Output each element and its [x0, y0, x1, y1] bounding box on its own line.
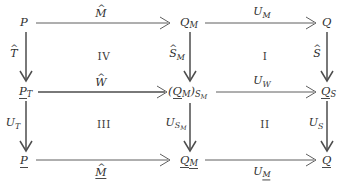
node-middle-right-base: Q	[321, 86, 330, 99]
hat-accent-icon: ^	[313, 44, 321, 53]
node-bottom-center-base: Q	[180, 155, 189, 168]
edge-label-bottom-right-sub: M	[263, 171, 271, 181]
edge-label-middle-right-sub: W	[263, 80, 271, 89]
node-middle-center: (QM)SM	[168, 86, 207, 100]
node-top-center-sub: M	[189, 20, 197, 30]
edge-label-right-upper: S^	[313, 48, 321, 59]
edge-label-left-lower: UT	[6, 117, 21, 130]
edge-label-left-lower-base: U	[6, 117, 15, 128]
hat-accent-icon: ^	[97, 73, 105, 82]
arrow-bottom-right	[205, 154, 316, 166]
node-middle-right: QS	[321, 86, 336, 99]
edge-label-center-upper-base: S^	[169, 48, 177, 59]
hat-accent-icon: ^	[169, 45, 177, 54]
edge-label-left-lower-sub: T	[15, 122, 20, 131]
node-top-left: P	[20, 17, 28, 29]
edge-label-center-lower-sub: SM	[175, 121, 187, 130]
edge-label-left-upper: T^	[10, 48, 17, 59]
hat-accent-icon: ^	[10, 44, 18, 53]
node-middle-center-outer-sub: SM	[195, 89, 207, 99]
node-bottom-right-base: Q	[322, 155, 331, 168]
commutative-diagram: P QM Q PT (QM)SM QS P QM Q M^ UM W^ UW	[0, 0, 359, 191]
edge-label-middle-left-base: W^	[95, 77, 106, 88]
hat-accent-icon: ^	[97, 4, 105, 13]
node-top-right-base: Q	[322, 17, 331, 29]
region-label-I: I	[263, 51, 268, 62]
edge-label-top-right: UM	[253, 6, 270, 19]
edge-label-top-right-base: U	[253, 6, 262, 17]
edge-label-left-upper-base: T^	[10, 48, 17, 59]
edge-label-top-left: M^	[95, 8, 106, 19]
edge-label-middle-right-base: U	[253, 75, 262, 86]
arrow-left-upper	[20, 32, 32, 81]
edge-label-bottom-left: M^	[95, 167, 106, 179]
node-middle-right-sub: S	[330, 89, 336, 99]
node-bottom-left-base: P	[20, 155, 28, 168]
node-top-center-base: Q	[180, 17, 189, 29]
node-top-right: Q	[322, 17, 331, 29]
region-label-II: II	[260, 119, 270, 130]
edge-label-center-lower: USM	[165, 117, 186, 131]
node-bottom-right: Q	[322, 155, 331, 168]
arrow-center-upper	[184, 32, 196, 81]
node-bottom-center: QM	[180, 155, 198, 168]
node-bottom-left: P	[20, 155, 28, 168]
arrow-right-upper	[321, 32, 333, 81]
edge-label-middle-right: UW	[253, 75, 270, 88]
node-middle-left-sub: T	[27, 89, 33, 99]
node-middle-center-outer-sub-sub: M	[201, 93, 208, 101]
edge-label-center-lower-sub-sub: M	[180, 124, 186, 131]
edge-label-right-lower-base: U	[309, 117, 318, 128]
node-bottom-center-sub: M	[189, 158, 197, 169]
edge-label-center-lower-base: U	[165, 117, 174, 128]
edge-label-bottom-left-base: M^	[95, 167, 106, 179]
hat-accent-icon: ^	[97, 163, 105, 172]
edge-label-bottom-right-base: U	[253, 166, 262, 177]
region-label-III: III	[97, 119, 111, 130]
edge-label-right-upper-base: S^	[313, 48, 321, 59]
node-middle-left: PT	[19, 86, 32, 99]
node-middle-center-base: Q	[173, 86, 182, 99]
edge-label-top-left-base: M^	[95, 8, 106, 19]
edge-label-right-lower: US	[309, 117, 324, 130]
arrow-left-lower	[20, 101, 32, 151]
edge-label-top-right-sub: M	[263, 11, 271, 20]
edge-label-right-lower-sub: S	[318, 122, 323, 131]
node-top-center: QM	[180, 17, 198, 30]
edge-label-bottom-right: UM	[253, 166, 270, 179]
edge-label-center-upper-sub: M	[177, 53, 185, 62]
region-label-IV: IV	[98, 51, 111, 62]
node-top-left-base: P	[20, 17, 28, 29]
edge-label-center-upper: S^M	[169, 48, 185, 61]
node-middle-left-base: P	[19, 86, 27, 99]
edge-label-middle-left: W^	[95, 77, 106, 88]
